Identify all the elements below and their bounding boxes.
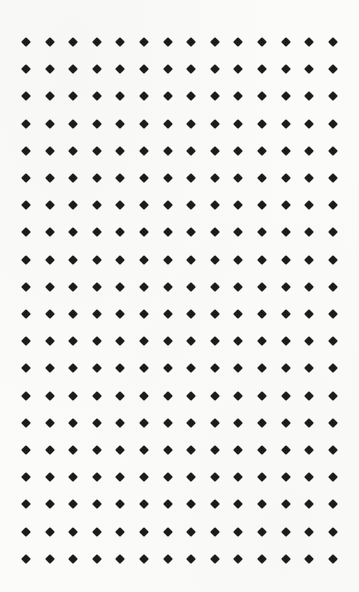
diamond-dot-icon <box>304 336 314 346</box>
diamond-dot-icon <box>21 309 31 319</box>
diamond-dot-icon <box>257 391 267 401</box>
diamond-dot-icon <box>304 119 314 129</box>
diamond-dot-icon <box>92 336 102 346</box>
diamond-dot-icon <box>210 37 220 47</box>
diamond-dot-icon <box>281 282 291 292</box>
diamond-dot-icon <box>210 554 220 564</box>
diamond-dot-icon <box>115 363 125 373</box>
diamond-dot-icon <box>115 64 125 74</box>
diamond-dot-icon <box>233 418 243 428</box>
diamond-dot-icon <box>45 227 55 237</box>
diamond-dot-icon <box>233 336 243 346</box>
diamond-dot-icon <box>328 64 338 74</box>
diamond-dot-icon <box>233 445 243 455</box>
diamond-dot-icon <box>139 445 149 455</box>
diamond-dot-icon <box>45 472 55 482</box>
diamond-dot-icon <box>304 146 314 156</box>
diamond-dot-icon <box>186 527 196 537</box>
diamond-dot-icon <box>186 472 196 482</box>
diamond-dot-icon <box>281 119 291 129</box>
diamond-dot-icon <box>304 554 314 564</box>
diamond-dot-icon <box>163 227 173 237</box>
diamond-dot-icon <box>45 554 55 564</box>
diamond-dot-icon <box>21 173 31 183</box>
diamond-dot-icon <box>139 499 149 509</box>
diamond-dot-icon <box>68 37 78 47</box>
diamond-dot-icon <box>68 554 78 564</box>
diamond-dot-icon <box>115 309 125 319</box>
diamond-dot-icon <box>304 363 314 373</box>
diamond-dot-icon <box>186 554 196 564</box>
diamond-dot-icon <box>281 499 291 509</box>
diamond-dot-icon <box>92 445 102 455</box>
diamond-dot-icon <box>210 527 220 537</box>
diamond-dot-icon <box>163 309 173 319</box>
diamond-dot-icon <box>21 554 31 564</box>
diamond-dot-icon <box>163 391 173 401</box>
diamond-dot-icon <box>210 146 220 156</box>
diamond-dot-icon <box>139 282 149 292</box>
diamond-dot-icon <box>210 391 220 401</box>
diamond-dot-icon <box>68 173 78 183</box>
diamond-dot-icon <box>328 227 338 237</box>
diamond-dot-icon <box>210 200 220 210</box>
diamond-dot-icon <box>115 173 125 183</box>
diamond-dot-icon <box>257 227 267 237</box>
diamond-dot-icon <box>328 527 338 537</box>
diamond-dot-icon <box>163 282 173 292</box>
diamond-dot-icon <box>45 336 55 346</box>
diamond-dot-icon <box>139 391 149 401</box>
diamond-dot-icon <box>139 37 149 47</box>
diamond-dot-icon <box>186 336 196 346</box>
diamond-dot-icon <box>257 445 267 455</box>
diamond-dot-icon <box>304 200 314 210</box>
diamond-dot-icon <box>328 472 338 482</box>
diamond-dot-icon <box>21 37 31 47</box>
diamond-dot-icon <box>163 173 173 183</box>
diamond-dot-icon <box>186 146 196 156</box>
diamond-dot-icon <box>186 309 196 319</box>
diamond-dot-icon <box>163 255 173 265</box>
diamond-dot-icon <box>233 363 243 373</box>
diamond-dot-icon <box>328 309 338 319</box>
diamond-dot-icon <box>139 527 149 537</box>
diamond-dot-icon <box>281 554 291 564</box>
diamond-dot-icon <box>92 527 102 537</box>
diamond-dot-icon <box>115 91 125 101</box>
diamond-dot-icon <box>92 119 102 129</box>
diamond-dot-icon <box>186 255 196 265</box>
diamond-dot-icon <box>68 363 78 373</box>
diamond-dot-icon <box>304 309 314 319</box>
diamond-dot-icon <box>115 227 125 237</box>
diamond-dot-icon <box>233 227 243 237</box>
diamond-dot-icon <box>92 391 102 401</box>
diamond-dot-icon <box>233 499 243 509</box>
diamond-dot-icon <box>68 418 78 428</box>
diamond-dot-icon <box>210 363 220 373</box>
diamond-dot-icon <box>304 173 314 183</box>
diamond-dot-icon <box>115 418 125 428</box>
diamond-dot-icon <box>139 309 149 319</box>
diamond-dot-icon <box>281 255 291 265</box>
diamond-dot-icon <box>92 37 102 47</box>
diamond-dot-icon <box>21 499 31 509</box>
diamond-dot-icon <box>257 309 267 319</box>
diamond-dot-icon <box>68 91 78 101</box>
diamond-dot-icon <box>68 391 78 401</box>
diamond-dot-icon <box>92 91 102 101</box>
diamond-dot-icon <box>328 363 338 373</box>
diamond-dot-icon <box>45 282 55 292</box>
diamond-dot-icon <box>233 309 243 319</box>
diamond-dot-icon <box>304 227 314 237</box>
diamond-dot-icon <box>21 391 31 401</box>
diamond-dot-icon <box>186 227 196 237</box>
diamond-dot-icon <box>328 554 338 564</box>
diamond-dot-icon <box>328 499 338 509</box>
diamond-dot-icon <box>257 336 267 346</box>
diamond-dot-icon <box>21 200 31 210</box>
diamond-dot-icon <box>186 91 196 101</box>
diamond-dot-icon <box>45 391 55 401</box>
diamond-dot-icon <box>328 391 338 401</box>
diamond-dot-icon <box>45 200 55 210</box>
diamond-dot-icon <box>163 499 173 509</box>
